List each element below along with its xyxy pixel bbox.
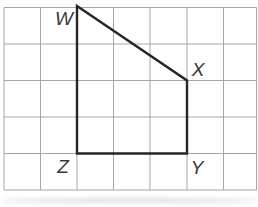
vertex-label-x: X (191, 59, 206, 80)
quadrilateral-WXYZ (77, 6, 187, 154)
grid-paper-figure: WXYZ (0, 0, 258, 207)
vertex-label-z: Z (56, 156, 70, 177)
vertex-label-y: Y (191, 157, 205, 178)
vertex-label-w: W (55, 8, 75, 29)
geometry-diagram: WXYZ (0, 0, 258, 207)
